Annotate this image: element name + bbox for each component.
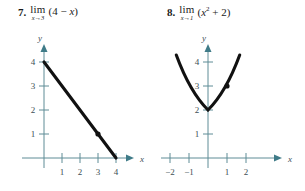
graph-8-xlabel-1: 1 xyxy=(225,167,230,177)
graph-7-ylabel-4: 4 xyxy=(31,57,36,67)
graph-8-ylabel-4: 4 xyxy=(195,57,200,67)
graph-8-svg: −2 −1 1 2 1 2 3 4 x y xyxy=(152,32,302,190)
graph-8-x-ticklabels: −2 −1 1 2 xyxy=(165,167,248,177)
graph-7-xlabel-4: 4 xyxy=(114,167,119,177)
graph-7-x-axis-label: x xyxy=(139,154,144,164)
graph-8-ylabel-1: 1 xyxy=(195,129,200,139)
problem-7-function-body: (4 − x) xyxy=(46,4,78,17)
graph-7-svg: 1 2 3 4 1 2 3 4 x y xyxy=(4,32,149,190)
graph-8-xlabel-2: 2 xyxy=(244,167,249,177)
problem-8-number: 8. xyxy=(167,4,175,18)
problem-7-expression: lim x→3 (4 − x) xyxy=(30,4,78,22)
graph-8-x-axis-arrow-icon xyxy=(274,155,282,162)
graph-7-xlabel-3: 3 xyxy=(96,167,101,177)
problem-8-limit-operator: lim x→1 xyxy=(179,4,194,22)
textbook-exercise-page: 7. lim x→3 (4 − x) 8. lim x→1 (x2 + 2) xyxy=(0,0,305,191)
problem-8-lim-subscript: x→1 xyxy=(179,15,194,22)
problem-7-expr-close: ) xyxy=(74,5,78,17)
graph-problem-8: −2 −1 1 2 1 2 3 4 x y xyxy=(152,32,302,190)
problem-8-header: 8. lim x→1 (x2 + 2) xyxy=(167,4,230,30)
graph-8-xlabel-minus2: −2 xyxy=(165,167,175,177)
graph-7-ylabel-2: 2 xyxy=(31,105,36,115)
graph-8-y-axis-label: y xyxy=(201,33,206,43)
problem-7-lim-subscript: x→3 xyxy=(30,15,45,22)
graph-7-ylabel-1: 1 xyxy=(31,129,36,139)
problem-7-number: 7. xyxy=(18,4,26,18)
graph-7-line-curve xyxy=(44,62,116,158)
graph-8-ylabel-2: 2 xyxy=(195,105,200,115)
graph-7-point-marker xyxy=(95,131,100,136)
graph-8-x-axis-label: x xyxy=(287,154,292,164)
problem-7-limit-operator: lim x→3 xyxy=(30,4,45,22)
graph-7-x-axis-arrow-icon xyxy=(126,155,134,162)
graph-7-ylabel-3: 3 xyxy=(31,81,36,91)
graph-7-y-axis-arrow-icon xyxy=(41,44,48,52)
problem-8-expr-close: + 2) xyxy=(210,6,231,18)
problem-7-expr-open: (4 − xyxy=(49,5,70,17)
graph-7-x-ticklabels: 1 2 3 4 xyxy=(60,167,119,177)
graph-7-xlabel-1: 1 xyxy=(60,167,65,177)
graph-problem-7: 1 2 3 4 1 2 3 4 x y xyxy=(4,32,149,190)
problem-8-expression: lim x→1 (x2 + 2) xyxy=(179,4,230,22)
graph-8-xlabel-minus1: −1 xyxy=(184,167,194,177)
graph-7-y-axis-label: y xyxy=(37,33,42,43)
graph-8-y-axis-arrow-icon xyxy=(205,44,212,52)
graph-7-y-ticklabels: 1 2 3 4 xyxy=(31,57,36,139)
problem-8-function-body: (x2 + 2) xyxy=(195,4,231,18)
problem-7-header: 7. lim x→3 (4 − x) xyxy=(18,4,78,30)
graph-7-xlabel-2: 2 xyxy=(78,167,83,177)
graph-8-ylabel-3: 3 xyxy=(195,81,200,91)
graph-8-point-marker xyxy=(224,83,229,88)
